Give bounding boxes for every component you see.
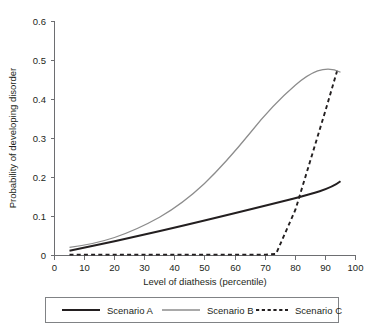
x-tick-label-70: 70 bbox=[260, 262, 271, 273]
x-axis-ticks bbox=[55, 256, 356, 260]
x-tick-label-60: 60 bbox=[230, 262, 241, 273]
x-tick-label-0: 0 bbox=[52, 262, 57, 273]
line-chart: 0.6 0.5 0.4 0.3 0.2 0.1 0 0 10 20 bbox=[0, 0, 383, 333]
y-axis-title: Probability of developing disorder bbox=[7, 68, 18, 208]
legend-label-scenario-a: Scenario A bbox=[107, 305, 154, 316]
y-axis-ticks bbox=[51, 22, 55, 256]
x-tick-label-80: 80 bbox=[290, 262, 301, 273]
series-line-scenario-a bbox=[70, 181, 341, 251]
chart-figure: 0.6 0.5 0.4 0.3 0.2 0.1 0 0 10 20 bbox=[0, 0, 383, 333]
x-axis-tick-labels: 0 10 20 30 40 50 60 70 80 90 100 bbox=[52, 262, 364, 273]
x-tick-label-10: 10 bbox=[79, 262, 90, 273]
x-axis-title: Level of diathesis (percentile) bbox=[143, 276, 267, 287]
y-tick-label-0.3: 0.3 bbox=[33, 133, 46, 144]
chart-legend: Scenario A Scenario B Scenario C bbox=[46, 298, 343, 323]
legend-label-scenario-c: Scenario C bbox=[295, 305, 342, 316]
series-line-scenario-c bbox=[70, 70, 338, 255]
y-tick-label-0.2: 0.2 bbox=[33, 172, 46, 183]
y-tick-label-0.5: 0.5 bbox=[33, 55, 46, 66]
y-axis-tick-labels: 0.6 0.5 0.4 0.3 0.2 0.1 0 bbox=[33, 16, 46, 261]
legend-label-scenario-b: Scenario B bbox=[207, 305, 253, 316]
x-tick-label-30: 30 bbox=[139, 262, 150, 273]
y-tick-label-0.6: 0.6 bbox=[33, 16, 46, 27]
x-tick-label-90: 90 bbox=[320, 262, 331, 273]
x-tick-label-50: 50 bbox=[199, 262, 210, 273]
x-tick-label-100: 100 bbox=[348, 262, 364, 273]
y-tick-label-0.4: 0.4 bbox=[33, 94, 46, 105]
y-tick-label-0.1: 0.1 bbox=[33, 211, 46, 222]
y-tick-label-0: 0 bbox=[41, 250, 46, 261]
x-tick-label-40: 40 bbox=[169, 262, 180, 273]
x-tick-label-20: 20 bbox=[109, 262, 120, 273]
